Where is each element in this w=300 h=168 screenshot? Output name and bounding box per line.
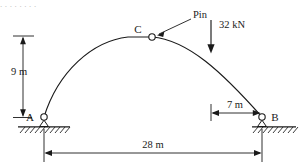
dimension-span-label: 28 m — [142, 139, 163, 150]
support-b-triangle-icon — [258, 120, 267, 126]
support-b-hinge-icon — [259, 114, 265, 120]
dimension-rise-label: 9 m — [11, 66, 27, 77]
pin-leader-line — [159, 19, 191, 34]
dimension-span-group: 28 m — [44, 129, 262, 162]
support-b-label: B — [271, 111, 278, 123]
arch-diagram-canvas: C Pin 32 kN — [0, 0, 300, 168]
support-a-label: A — [26, 111, 34, 123]
dimension-offset-group: 7 m — [211, 99, 261, 121]
point-load-label: 32 kN — [219, 19, 245, 30]
crown-hinge-label: C — [134, 23, 141, 35]
arch-diagram-figure: ........ C Pin 32 kN — [0, 0, 300, 168]
pin-annotation-group: Pin — [157, 9, 208, 37]
dimension-rise-arrowhead-up-icon — [20, 37, 26, 45]
support-a-triangle-icon — [40, 120, 49, 126]
crown-hinge-group: C — [134, 23, 155, 40]
dimension-rise-group: 9 m — [11, 36, 34, 118]
point-load-group: 32 kN — [207, 19, 245, 54]
support-a-ground-hatching — [20, 127, 70, 133]
crown-hinge-icon — [149, 34, 155, 40]
dimension-offset-label: 7 m — [227, 99, 243, 110]
pin-note-label: Pin — [193, 9, 208, 20]
dimension-span-arrowhead-left-icon — [44, 150, 52, 156]
dimension-span-arrowhead-right-icon — [254, 150, 262, 156]
point-load-arrowhead-icon — [207, 44, 214, 53]
pin-leader-arrowhead-icon — [157, 32, 164, 37]
dimension-rise-arrowhead-down-icon — [20, 109, 26, 117]
support-a-hinge-icon — [41, 114, 47, 120]
support-b-ground-hatching — [253, 127, 298, 133]
dimension-offset-arrowhead-left-icon — [211, 110, 219, 116]
